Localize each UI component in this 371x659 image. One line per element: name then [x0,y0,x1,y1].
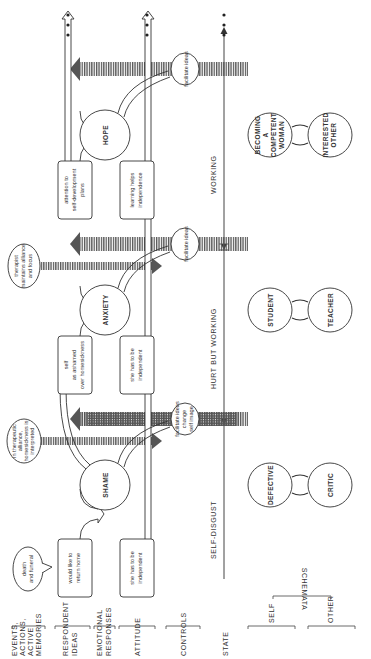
svg-text:self image: self image [188,406,194,432]
svg-text:over homesickness: over homesickness [79,341,85,389]
row-label-emotional-responses: EMOTIONAL [96,609,103,656]
row-label-self: SELF [268,603,275,623]
svg-text:maintains alliance: maintains alliance [20,244,26,288]
schema-other-interested: INTERESTED [322,112,329,157]
svg-text:and funeral: and funeral [28,555,34,583]
phase-hurt-but-working: self as ashamed over homesickness she ha… [8,226,352,394]
hatched-arrow-controls-2 [70,232,248,256]
schema-self-becoming: BECOMING [254,116,261,155]
row-label-other: OTHER [327,596,334,624]
svg-text:ACTIONS,: ACTIONS, [19,618,26,656]
svg-text:facilitate ideas: facilitate ideas [183,226,189,262]
svg-text:change: change [181,410,187,428]
svg-text:attention to: attention to [63,176,69,204]
svg-text:would like to: would like to [67,553,73,585]
svg-text:therapist: therapist [13,255,19,277]
hatched-arrow-controls-1 [70,407,248,431]
phase-working: attention to self-development plans lear… [58,51,352,219]
svg-text:she has to be: she has to be [129,551,135,585]
state-timeline: SELF-DISGUST HURT BUT WORKING WORKING [210,27,229,579]
svg-text:HOPE: HOPE [102,125,109,145]
row-label-respondent-ideas: RESPONDENT [62,601,69,656]
svg-text:independent: independent [137,552,143,583]
hatched-arrow-therapy-2 [40,258,162,274]
state-self-disgust: SELF-DISGUST [210,501,217,559]
svg-text:independence: independence [137,172,143,207]
svg-text:A: A [262,132,269,137]
schema-other-critic: CRITIC [327,473,334,497]
schema-self-defective: DEFECTIVE [267,465,274,505]
schemata-state-diagram: EVENTS, ACTIONS, ACTIVE MEMORIES RESPOND… [0,0,371,659]
schema-self-student: STUDENT [267,293,274,327]
svg-text:independent: independent [137,349,143,380]
svg-text:MEMORIES: MEMORIES [35,613,42,656]
svg-text:return home: return home [75,553,81,583]
svg-text:learning helps: learning helps [129,172,135,207]
svg-text:self: self [63,360,69,369]
svg-text:facilitate ideas: facilitate ideas [183,51,189,87]
state-hurt-but-working: HURT BUT WORKING [210,308,217,389]
svg-text:OTHER: OTHER [330,123,337,148]
svg-text:as ashamed: as ashamed [71,350,77,380]
hatched-arrow-controls-3 [70,57,248,81]
svg-text:RESPONSES: RESPONSES [105,607,112,656]
svg-text:ANXIETY: ANXIETY [102,294,109,325]
row-label-state: STATE [222,631,229,656]
row-label-schemata: SCHEMATA [301,568,308,611]
phase-self-disgust: death and funeral would like to return h… [7,389,352,597]
schema-other-teacher: TEACHER [327,293,334,327]
svg-text:COMPETENT: COMPETENT [270,113,277,157]
svg-text:she has to be: she has to be [129,348,135,382]
svg-text:SHAME: SHAME [102,472,109,498]
svg-text:plans: plans [79,183,85,197]
row-label-events: EVENTS, [11,622,18,656]
svg-text:interpreted: interpreted [29,428,35,455]
svg-text:ACTIVE: ACTIVE [27,627,34,656]
row-label-attitude: ATTITUDE [134,617,141,656]
svg-text:self-development: self-development [71,168,77,211]
hatched-arrow-therapy-1 [40,433,162,449]
svg-text:and focus: and focus [27,254,33,278]
state-working: WORKING [210,156,217,194]
svg-text:facilitate ideas: facilitate ideas [174,401,180,437]
row-label-controls: CONTROLS [180,612,187,656]
svg-text:IDEAS: IDEAS [71,632,78,656]
svg-text:death: death [21,562,27,576]
svg-text:WOMAN: WOMAN [278,121,285,149]
